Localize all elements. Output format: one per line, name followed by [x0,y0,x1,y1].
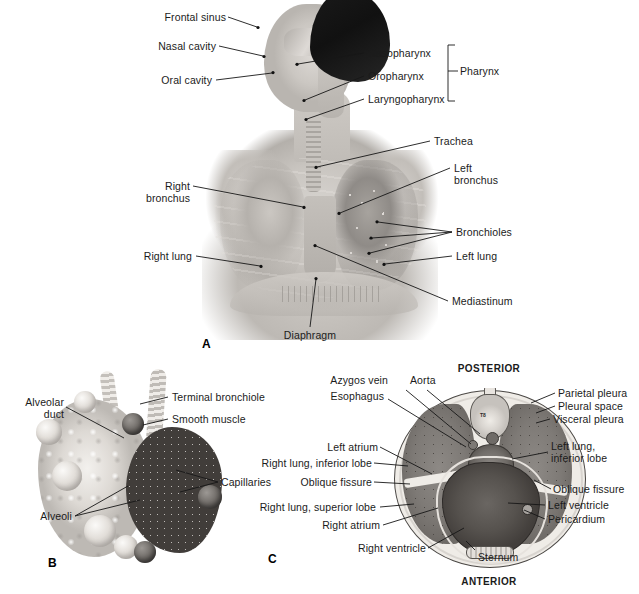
label-right-bronchus-line2: bronchus [108,192,190,204]
label-smooth-muscle: Smooth muscle [172,413,246,425]
label-right-ventricle: Right ventricle [318,542,426,554]
label-oropharynx: Oropharynx [368,70,424,82]
label-pharynx: Pharynx [460,65,499,77]
label-alveolar-duct-line1: Alveolar [2,396,64,408]
label-oral-cavity: Oral cavity [108,74,212,86]
right-lung-shape [220,160,306,290]
label-visceral-pleura: Visceral pleura [553,413,624,425]
label-pleural-space: Pleural space [558,400,623,412]
panel-letter-c: C [268,552,277,566]
diaphragm-striations [282,286,380,302]
label-bronchioles: Bronchioles [456,226,512,238]
label-left-atrium: Left atrium [290,441,378,453]
label-laryngopharynx: Laryngopharynx [368,93,445,105]
panel-letter-b: B [48,556,57,570]
label-oblique-fissure-right: Oblique fissure [553,483,625,495]
label-posterior: POSTERIOR [414,363,564,375]
label-sternum: Sternum [478,551,518,563]
capillary-lobule [122,413,144,435]
label-anterior: ANTERIOR [414,576,564,588]
head [258,0,390,124]
label-alveoli: Alveoli [10,510,72,522]
vertebra-label: T8 [480,412,486,418]
label-trachea: Trachea [434,135,473,147]
label-oblique-fissure-left: Oblique fissure [266,476,372,488]
label-capillaries: Capillaries [221,476,271,488]
label-parietal-pleura: Parietal pleura [558,387,627,399]
pericardium-marker [522,504,533,515]
label-right-lung: Right lung [108,250,192,262]
label-terminal-bronchiole: Terminal bronchiole [172,391,265,403]
label-nasal-cavity: Nasal cavity [108,40,216,52]
label-mediastinum: Mediastinum [452,295,513,307]
label-frontal-sinus: Frontal sinus [108,11,226,23]
respiratory-anatomy-figure: T8 [0,0,639,594]
label-pericardium: Pericardium [548,513,605,525]
panel-letter-a: A [202,337,211,351]
label-alveolar-duct-line2: duct [2,408,64,420]
bronchial-tree-shape [336,172,412,276]
alveolus [36,419,62,445]
label-left-lung: Left lung [456,250,497,262]
label-right-lung-superior-lobe: Right lung, superior lobe [230,501,376,513]
capillary-lobule [198,485,222,509]
label-left-lung-line2: inferior lobe [551,452,607,464]
label-diaphragm: Diaphragm [262,329,358,341]
label-esophagus: Esophagus [290,390,384,402]
label-left-bronchus-line2: bronchus [454,174,498,186]
label-right-atrium: Right atrium [280,519,380,531]
alveolus [52,461,82,491]
mediastinum-shape [304,196,336,282]
label-left-bronchus-line1: Left [454,162,472,174]
capillary-lobule [134,541,156,563]
trachea-shape [306,118,321,192]
label-azygos-vein: Azygos vein [300,374,388,386]
label-left-lung-line1: Left lung, [551,440,595,452]
label-left-ventricle: Left ventricle [548,499,609,511]
label-aorta: Aorta [410,374,436,386]
label-right-bronchus-line1: Right [108,180,190,192]
alveolus [74,391,96,413]
alveolus [84,515,116,547]
label-nasopharynx: Nasopharynx [368,47,431,59]
label-right-lung-inferior-lobe: Right lung, inferior lobe [232,457,372,469]
